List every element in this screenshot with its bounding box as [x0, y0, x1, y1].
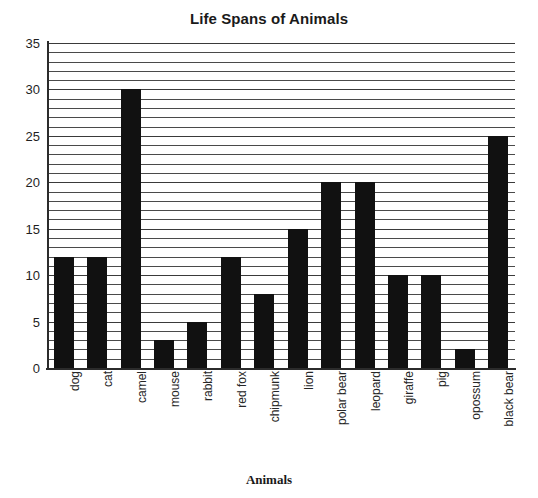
- x-axis-tick-label: cat: [102, 371, 114, 387]
- bar[interactable]: [388, 275, 408, 368]
- x-axis-tick-label-text: leopard: [370, 371, 382, 411]
- bar-chart: Life Spans of Animals 05101520253035 dog…: [0, 0, 538, 498]
- bar[interactable]: [221, 257, 241, 368]
- bar[interactable]: [355, 182, 375, 368]
- bar[interactable]: [121, 89, 141, 368]
- y-axis-tick-label: 30: [10, 83, 40, 96]
- x-axis-tick-label-text: mouse: [169, 371, 181, 407]
- x-axis-tick-label-text: polar bear: [336, 371, 348, 425]
- x-axis-tick-label: camel: [136, 371, 148, 403]
- x-axis-tick-label-text: rabbit: [202, 371, 214, 401]
- x-axis-tick-labels: dogcatcamelmouserabbitred foxchipmunklio…: [47, 371, 515, 471]
- x-axis-tick-label: giraffe: [403, 371, 415, 404]
- y-axis-tick-label: 35: [10, 37, 40, 50]
- x-axis-title: Animals: [0, 472, 538, 488]
- chart-title: Life Spans of Animals: [0, 10, 538, 27]
- x-axis-tick-label-text: camel: [136, 371, 148, 403]
- bar[interactable]: [87, 257, 107, 368]
- bar[interactable]: [154, 340, 174, 368]
- bar[interactable]: [421, 275, 441, 368]
- y-axis-tick-label: 5: [10, 316, 40, 329]
- bar[interactable]: [254, 294, 274, 368]
- y-axis-tick-label: 15: [10, 223, 40, 236]
- y-axis-tick-label: 20: [10, 176, 40, 189]
- x-axis-tick-label: rabbit: [202, 371, 214, 401]
- x-axis-line: [46, 368, 516, 370]
- x-axis-tick-label: lion: [303, 371, 315, 390]
- x-axis-tick-label-text: chipmunk: [269, 371, 281, 422]
- y-axis-tick-label: 10: [10, 269, 40, 282]
- x-axis-tick-label-text: black bear: [503, 371, 515, 426]
- x-axis-tick-label: chipmunk: [269, 371, 281, 422]
- bars-layer: [47, 43, 515, 368]
- x-axis-tick-label-text: pig: [436, 371, 448, 387]
- x-axis-tick-label: pig: [436, 371, 448, 387]
- x-axis-tick-label: polar bear: [336, 371, 348, 425]
- x-axis-tick-label: leopard: [370, 371, 382, 411]
- bar[interactable]: [54, 257, 74, 368]
- bar[interactable]: [187, 322, 207, 368]
- bar[interactable]: [488, 136, 508, 368]
- x-axis-tick-label: opossum: [470, 371, 482, 420]
- x-axis-tick-label: red fox: [236, 371, 248, 408]
- x-axis-tick-label: dog: [69, 371, 81, 391]
- x-axis-tick-label-text: red fox: [236, 371, 248, 408]
- bar[interactable]: [455, 349, 475, 368]
- x-axis-tick-label-text: opossum: [470, 371, 482, 420]
- y-axis-tick-label: 25: [10, 130, 40, 143]
- bar[interactable]: [288, 229, 308, 368]
- y-axis-tick-label: 0: [10, 362, 40, 375]
- x-axis-tick-label-text: cat: [102, 371, 114, 387]
- x-axis-tick-label-text: giraffe: [403, 371, 415, 404]
- x-axis-tick-label-text: dog: [69, 371, 81, 391]
- y-axis-tick-labels: 05101520253035: [8, 0, 40, 498]
- x-axis-tick-label-text: lion: [303, 371, 315, 390]
- bar[interactable]: [321, 182, 341, 368]
- x-axis-tick-label: black bear: [503, 371, 515, 426]
- x-axis-tick-label: mouse: [169, 371, 181, 407]
